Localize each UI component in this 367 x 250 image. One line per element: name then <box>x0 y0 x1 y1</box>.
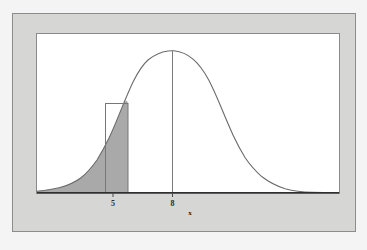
x-tick-label-8: 8 <box>171 199 175 208</box>
figure-root: 5 8 x <box>0 0 367 250</box>
x-tick-label-5: 5 <box>111 199 115 208</box>
distribution-figure: 5 8 x <box>0 0 367 250</box>
plot-area-box <box>37 34 340 194</box>
x-axis-label: x <box>188 209 192 217</box>
